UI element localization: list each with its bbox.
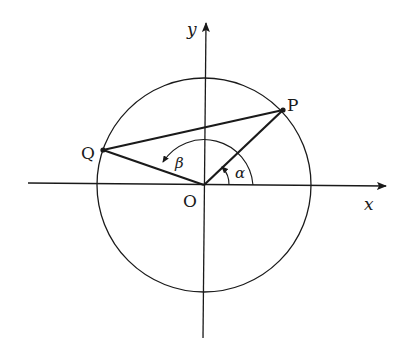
- point-q-label: Q: [81, 143, 95, 163]
- point-p: [280, 107, 285, 112]
- y-axis-label: y: [186, 19, 197, 39]
- alpha-angle-arc: [222, 167, 229, 185]
- beta-label: β: [174, 154, 184, 172]
- alpha-label: α: [235, 164, 245, 182]
- point-q: [100, 147, 105, 152]
- segment-pq: [103, 110, 283, 150]
- segment-oq: [103, 150, 204, 185]
- x-axis-label: x: [364, 194, 374, 214]
- unit-circle-diagram: P Q O x y α β: [0, 0, 409, 349]
- origin-label: O: [183, 191, 197, 211]
- y-axis: [203, 23, 206, 338]
- point-p-label: P: [287, 95, 298, 115]
